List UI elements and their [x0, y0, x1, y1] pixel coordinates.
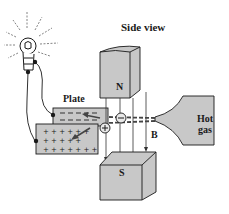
positive-ion-icon — [100, 123, 110, 133]
south-pole-label: S — [119, 167, 125, 178]
upper-plate-negative — [53, 108, 108, 126]
svg-text:+ + + + + + +: + + + + + + + — [43, 146, 98, 154]
magnetic-field-lines — [106, 92, 146, 160]
plate-label: Plate — [63, 93, 85, 104]
hot-gas-label-line1: Hot — [191, 113, 219, 124]
mhd-generator-diagram: + + + + + + + + + + + + + + + + + + — [0, 0, 229, 214]
negative-ion-icon — [116, 113, 126, 123]
wire-junction — [51, 113, 55, 117]
hot-gas-label-line2: gas — [191, 124, 219, 135]
north-pole-label: N — [116, 81, 123, 92]
wire-junction — [26, 70, 30, 74]
ion-stream — [108, 117, 155, 123]
wire-junction — [34, 139, 38, 143]
light-bulb-icon — [20, 38, 36, 70]
magnetic-field-label: B — [151, 129, 158, 140]
wire-junction — [33, 60, 37, 64]
hot-gas-label: Hot gas — [191, 113, 219, 135]
south-magnet — [100, 152, 156, 200]
figure-title: Side view — [121, 21, 165, 33]
